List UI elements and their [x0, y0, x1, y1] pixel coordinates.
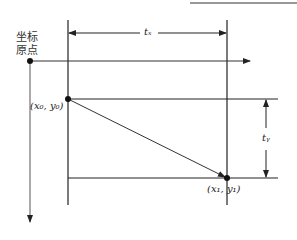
start-point-label: (x₀, y₀) — [30, 100, 63, 111]
origin-label: 坐标 原点 — [16, 31, 38, 57]
origin-label-line2: 原点 — [16, 44, 38, 57]
origin-label-line1: 坐标 — [16, 31, 38, 44]
start-point — [65, 96, 71, 102]
movement-vector — [68, 99, 225, 177]
tx-label: tₓ — [144, 26, 152, 37]
end-point — [224, 175, 230, 181]
origin-point — [27, 58, 33, 64]
end-point-label: (x₁, y₁) — [207, 183, 240, 194]
ty-label: tᵧ — [262, 132, 270, 143]
